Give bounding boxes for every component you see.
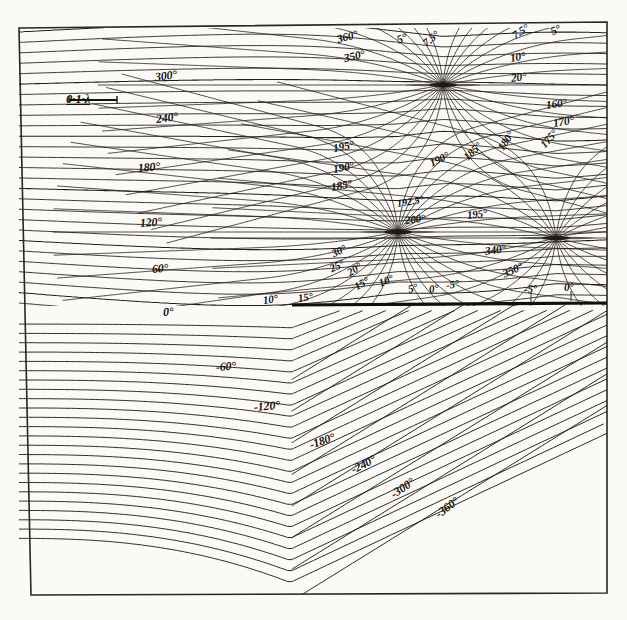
contour-label: 0° — [564, 281, 574, 293]
contour-label: 200° — [404, 212, 425, 226]
contour-label: 180° — [137, 159, 160, 176]
scale-bar: 0·1·λ — [66, 92, 90, 107]
contour-label: 195° — [466, 207, 487, 221]
contour-label: -5° — [445, 277, 460, 291]
contour-label: 120° — [139, 214, 162, 230]
contour-label: -120° — [253, 398, 280, 415]
contour-label: 300° — [154, 67, 178, 85]
contour-label: 10° — [509, 50, 526, 64]
contour-label: 0° — [428, 282, 439, 295]
contour-label: 20° — [510, 70, 527, 84]
contour-label: 5° — [407, 281, 419, 295]
contour-figure: 0·1·λ 300°240°180°120°60°0°360°350°5°7.5… — [0, 0, 627, 620]
contour-label: 0° — [163, 304, 174, 320]
scale-bar-ruler — [66, 92, 136, 104]
contour-label: -5° — [524, 282, 538, 295]
contour-label: -60° — [215, 359, 236, 375]
half-plane-screen-edge — [292, 303, 607, 305]
contour-label: 15° — [297, 290, 313, 304]
contour-label: 60° — [151, 261, 168, 277]
contour-label: 240° — [155, 109, 179, 127]
contour-label: 10° — [262, 292, 278, 306]
